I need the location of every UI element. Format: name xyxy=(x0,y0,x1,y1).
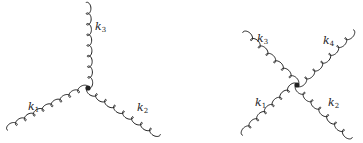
vertex-dot xyxy=(294,82,299,87)
vertex-dot xyxy=(85,85,90,90)
gluon-line-k3 xyxy=(243,31,299,85)
four-gluon-vertex-diagram: k3k4k1k2 xyxy=(241,30,355,139)
gluon-line-k3 xyxy=(86,2,93,88)
three-gluon-vertex-diagram: k3k1k2 xyxy=(7,2,161,136)
momentum-label-k1: k1 xyxy=(255,96,266,110)
momentum-label-k2: k2 xyxy=(328,96,339,110)
momentum-label-k3: k3 xyxy=(257,32,268,46)
momentum-label-k1: k1 xyxy=(28,100,39,114)
feynman-diagrams: k3k1k2 k3k4k1k2 xyxy=(0,0,363,143)
gluon-line-k2 xyxy=(87,88,161,137)
gluon-line-k2 xyxy=(295,85,352,139)
momentum-label-k3: k3 xyxy=(95,20,106,34)
gluon-line-k1 xyxy=(241,83,297,135)
momentum-label-k2: k2 xyxy=(137,101,148,115)
momentum-label-k4: k4 xyxy=(323,34,335,48)
gluon-line-k1 xyxy=(7,85,89,130)
